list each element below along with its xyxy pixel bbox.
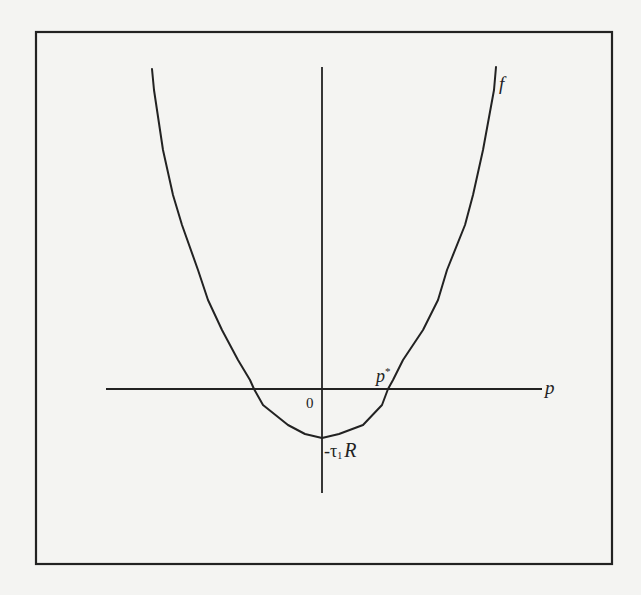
figure-frame [36,32,612,564]
intercept-prefix: -τ [324,441,337,461]
intercept-suffix: R [344,439,356,461]
curve-label-f: f [499,74,504,93]
origin-label: 0 [306,396,314,411]
p-star-base: p [376,366,385,386]
x-axis-label-p: p [545,378,555,397]
p-star-label: p* [376,366,391,385]
curve-f [152,67,496,438]
figure-canvas [0,0,641,595]
p-star-superscript: * [385,365,391,377]
intercept-subscript: 1 [337,450,342,461]
intercept-label: -τ1R [324,440,356,461]
